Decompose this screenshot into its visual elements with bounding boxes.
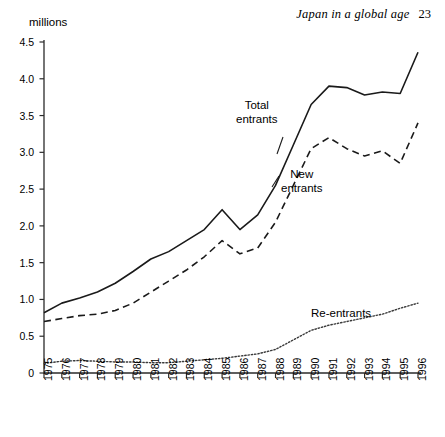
chart-page: Japan in a global age23 millions 4.54.03… <box>0 0 445 437</box>
annotation-line-1: Total <box>236 99 278 113</box>
series-annotation-new-entrants: New entrants <box>281 168 323 195</box>
annotation-line-2: entrants <box>281 182 323 196</box>
series-annotation-total-entrants: Total entrants <box>236 99 278 126</box>
annotation-line-2: entrants <box>236 113 278 127</box>
x-axis-tick-labels: 1975197619771978197919801981198219831984… <box>0 0 445 437</box>
series-annotation-re-entrants: Re-entrants <box>311 307 371 321</box>
annotation-line-1: New <box>281 168 323 182</box>
annotation-line-1: Re-entrants <box>311 307 371 321</box>
